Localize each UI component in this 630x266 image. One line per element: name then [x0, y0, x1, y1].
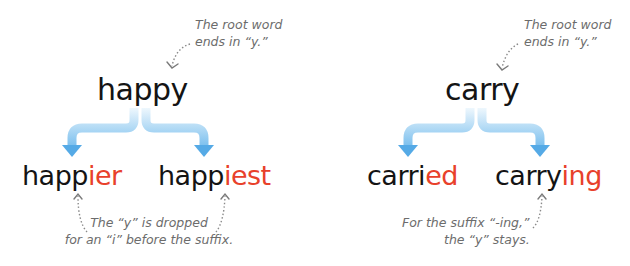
note-line: The root word: [195, 16, 282, 33]
note-line: For the suffix “-ing,”: [402, 214, 530, 231]
derived-word-carried: carried: [367, 162, 458, 189]
top-note-left: The root word ends in “y.”: [195, 16, 282, 50]
root-word-carry: carry: [445, 75, 519, 105]
branch-arrow-right-2: [482, 108, 550, 157]
pointer-top-right: [502, 44, 518, 68]
word-stem: happ: [158, 160, 224, 191]
branch-arrow-right-1: [398, 108, 470, 157]
note-line: ends in “y.”: [195, 33, 282, 50]
pointer-top-left: [172, 44, 190, 66]
arrow-head-icon: [62, 145, 82, 157]
word-stem: carri: [367, 160, 425, 191]
arrow-head-icon: [530, 145, 550, 157]
root-word-happy: happy: [97, 75, 188, 105]
note-line: The “y” is dropped: [64, 214, 234, 231]
arrow-head-icon: [398, 145, 418, 157]
note-line: for an “i” before the suffix.: [64, 231, 234, 248]
word-suffix: ed: [425, 160, 458, 191]
arrow-head-icon: [194, 145, 214, 157]
branch-arrow-left-1: [62, 108, 134, 157]
branch-arrow-left-2: [146, 108, 214, 157]
word-suffix: ing: [562, 160, 602, 191]
derived-word-happiest: happiest: [158, 162, 271, 189]
note-line: ends in “y.”: [524, 33, 611, 50]
word-stem: carry: [495, 160, 562, 191]
note-line: The root word: [524, 16, 611, 33]
spelling-diagram: The root word ends in “y.” happy happier…: [0, 0, 630, 266]
note-line: the “y” stays.: [402, 231, 530, 248]
word-stem: happ: [22, 160, 88, 191]
word-suffix: iest: [224, 160, 271, 191]
word-suffix: ier: [88, 160, 122, 191]
bottom-note-left: The “y” is dropped for an “i” before the…: [64, 214, 234, 248]
derived-word-carrying: carrying: [495, 162, 602, 189]
pointer-bottom-right: [533, 196, 542, 228]
top-note-right: The root word ends in “y.”: [524, 16, 611, 50]
derived-word-happier: happier: [22, 162, 122, 189]
bottom-note-right: For the suffix “-ing,” the “y” stays.: [402, 214, 530, 248]
